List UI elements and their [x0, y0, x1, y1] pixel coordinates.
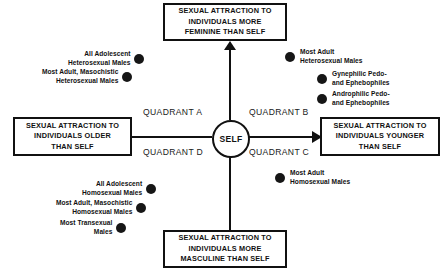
axis-label-bottom-text: SEXUAL ATTRACTION TOINDIVIDUALS MOREMASC…: [178, 233, 271, 265]
data-point: Most AdultHeterosexual Males: [285, 48, 362, 65]
data-point-dot-icon: [122, 72, 132, 82]
arrow-up-icon: [224, 41, 236, 50]
quadrant-label-d: QUADRANT D: [143, 147, 203, 157]
data-point-label: Most AdultHomosexual Males: [290, 169, 350, 186]
data-point: Most Adult, MasochisticHomosexual Males: [56, 199, 146, 216]
axis-label-top-text: SEXUAL ATTRACTION TOINDIVIDUALS MOREFEMI…: [178, 6, 271, 38]
data-point-label: Most Adult, MasochisticHeterosexual Male…: [42, 68, 118, 85]
axis-label-box-bottom: SEXUAL ATTRACTION TOINDIVIDUALS MOREMASC…: [163, 230, 287, 268]
data-point-dot-icon: [317, 74, 327, 84]
data-point-label: All AdolescentHeterosexual Males: [68, 50, 130, 67]
data-point: All AdolescentHeterosexual Males: [68, 50, 144, 67]
data-point-dot-icon: [136, 203, 146, 213]
axis-label-box-right: SEXUAL ATTRACTION TOINDIVIDUALS YOUNGERT…: [320, 117, 440, 156]
self-node-label: SELF: [220, 134, 243, 144]
data-point-label: Gynephilic Pedo-and Ephebophiles: [332, 70, 390, 87]
data-point-dot-icon: [317, 94, 327, 104]
data-point-dot-icon: [146, 184, 156, 194]
quadrant-label-c: QUADRANT C: [249, 147, 309, 157]
data-point: Most Adult, MasochisticHeterosexual Male…: [42, 68, 132, 85]
data-point-dot-icon: [116, 223, 126, 233]
axis-label-box-left: SEXUAL ATTRACTION TOINDIVIDUALS OLDERTHA…: [13, 117, 132, 156]
axis-label-box-top: SEXUAL ATTRACTION TOINDIVIDUALS MOREFEMI…: [163, 3, 287, 41]
quadrant-diagram: SELF SEXUAL ATTRACTION TOINDIVIDUALS MOR…: [0, 0, 446, 269]
axis-line-vertical-upper: [229, 50, 231, 120]
axis-line-horizontal-left: [132, 136, 212, 138]
data-point: Gynephilic Pedo-and Ephebophiles: [317, 70, 390, 87]
data-point: Most AdultHomosexual Males: [275, 169, 350, 186]
data-point-label: Most TransexualMales: [60, 219, 112, 236]
data-point-label: Most AdultHeterosexual Males: [300, 48, 362, 65]
data-point: Most TransexualMales: [60, 219, 126, 236]
data-point-dot-icon: [134, 54, 144, 64]
data-point-dot-icon: [285, 52, 295, 62]
data-point: Androphilic Pedo-and Ephebophiles: [317, 90, 390, 107]
data-point-label: All AdolescentHomosexual Males: [82, 180, 142, 197]
quadrant-label-b: QUADRANT B: [249, 107, 309, 117]
data-point-label: Androphilic Pedo-and Ephebophiles: [332, 90, 390, 107]
axis-line-horizontal-right: [246, 136, 314, 138]
axis-label-left-text: SEXUAL ATTRACTION TOINDIVIDUALS OLDERTHA…: [26, 121, 119, 153]
data-point: All AdolescentHomosexual Males: [82, 180, 156, 197]
axis-label-right-text: SEXUAL ATTRACTION TOINDIVIDUALS YOUNGERT…: [333, 121, 426, 153]
data-point-dot-icon: [275, 173, 285, 183]
data-point-label: Most Adult, MasochisticHomosexual Males: [56, 199, 132, 216]
axis-line-vertical-lower: [229, 154, 231, 230]
self-node: SELF: [212, 120, 250, 158]
quadrant-label-a: QUADRANT A: [143, 107, 202, 117]
